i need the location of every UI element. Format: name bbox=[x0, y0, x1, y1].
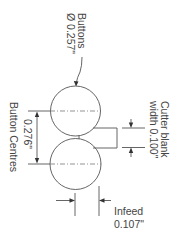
infeed-value-label: 0.107" bbox=[114, 218, 144, 230]
button-cutter-diagram: Buttons Ø 0.257" 0.276" Button Centres C… bbox=[0, 0, 182, 244]
infeed-label: Infeed bbox=[114, 205, 143, 217]
centres-value-label: 0.276" bbox=[22, 119, 34, 149]
cutter-width-label: width 0.100" bbox=[148, 100, 160, 159]
buttons-leader-line bbox=[77, 57, 83, 82]
infeed-arrow-right-icon bbox=[70, 198, 76, 202]
buttons-diameter-label: Ø 0.257" bbox=[65, 13, 77, 54]
centres-arrow-down-icon bbox=[35, 158, 39, 164]
cutter-blank bbox=[93, 128, 117, 148]
cutter-arrow-down-icon bbox=[129, 123, 133, 129]
centres-label: Button Centres bbox=[8, 102, 20, 172]
cutter-arrow-up-icon bbox=[129, 148, 133, 154]
infeed-arrow-left-icon bbox=[99, 198, 105, 202]
centres-arrow-up-icon bbox=[35, 112, 39, 118]
